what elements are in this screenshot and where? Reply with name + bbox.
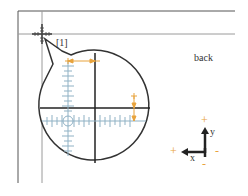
axis-indicator-icon [181,127,209,157]
x-minus-sign: - [215,144,219,159]
y-plus-sign: + [201,113,208,128]
surface-label: back [194,52,213,63]
x-plus-sign: + [170,144,177,159]
callout-label: [1] [56,37,68,48]
magnifier-callout [39,39,149,160]
diagram-canvas [0,0,248,196]
x-axis-label: x [190,152,195,163]
y-minus-sign: - [202,157,206,172]
y-axis-label: y [210,126,215,137]
